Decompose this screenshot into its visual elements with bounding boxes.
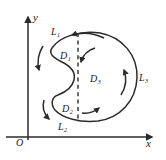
curve-label-l3: L3 — [139, 73, 148, 83]
curve-l2-subscript: 2 — [64, 126, 67, 133]
orientation-arrow-top — [72, 33, 104, 38]
curve-l3-subscript: 3 — [145, 77, 148, 84]
region-d2-subscript: 2 — [70, 108, 73, 115]
orientation-arrow-lower-left — [43, 100, 49, 119]
figure-container: y x O L1 L2 L3 D1 D2 D3 — [0, 0, 166, 160]
orientation-arrow-right — [121, 70, 126, 95]
region-label-d2: D2 — [62, 104, 72, 114]
curve-l3-base: L — [139, 72, 145, 83]
orientation-arrow-upper-left — [38, 46, 43, 70]
region-d1-subscript: 1 — [68, 55, 71, 62]
region-d2-base: D — [62, 103, 69, 114]
curve-label-l2: L2 — [58, 122, 67, 132]
orientation-arrow-d1-inner — [81, 48, 95, 62]
region-label-d1: D1 — [60, 51, 70, 61]
orientation-arrow-d2-inner — [82, 108, 99, 113]
curve-l2-base: L — [58, 121, 64, 132]
region-d1-base: D — [60, 50, 67, 61]
region-d3-base: D — [90, 73, 97, 84]
y-axis-label: y — [33, 12, 38, 23]
region-label-d3: D3 — [90, 74, 100, 84]
curve-l1-subscript: 1 — [57, 31, 60, 38]
region-d3-subscript: 3 — [98, 78, 101, 85]
origin-label: O — [16, 138, 23, 148]
curve-l1-base: L — [51, 26, 57, 37]
curve-label-l1: L1 — [51, 27, 60, 37]
x-axis-label: x — [146, 138, 151, 149]
